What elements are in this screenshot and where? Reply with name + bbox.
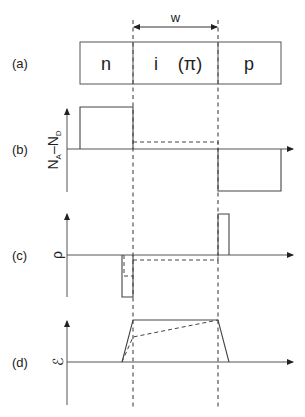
svg-text:NA–ND: NA–ND — [45, 130, 63, 169]
doping-axis-label: NA–ND — [45, 130, 63, 169]
charge-axis-label: ρ — [49, 251, 65, 259]
region-p-label: p — [244, 54, 254, 74]
doping-label-sub-d: D — [54, 130, 63, 136]
doping-label-minus: – — [45, 146, 61, 154]
panel-b-label: (b) — [12, 142, 28, 157]
panel-c-label: (c) — [12, 248, 27, 263]
doping-pi-region-dashed — [133, 142, 218, 149]
doping-label-n-d: N — [45, 136, 61, 146]
doping-p-region-step — [218, 149, 281, 191]
panel-d-label: (d) — [12, 355, 28, 370]
charge-positive-spike — [218, 214, 229, 255]
field-pi-dashed — [122, 320, 218, 362]
region-n-label: n — [101, 54, 111, 74]
doping-label-n-a: N — [45, 159, 61, 169]
panel-a-label: (a) — [12, 56, 28, 71]
field-trapezoid-solid — [122, 320, 229, 362]
charge-pi-dashed-spike — [124, 255, 133, 276]
doping-n-region-step — [80, 107, 133, 149]
charge-pi-dashed-level — [133, 255, 218, 260]
pin-diode-diagram: w (a) n i (π) p (b) NA–ND (c) ρ (d) ℰ — [0, 0, 305, 417]
region-i-label: i — [154, 54, 158, 74]
region-pi-label: (π) — [178, 54, 202, 74]
field-axis-label: ℰ — [50, 358, 66, 366]
width-label: w — [170, 10, 181, 25]
